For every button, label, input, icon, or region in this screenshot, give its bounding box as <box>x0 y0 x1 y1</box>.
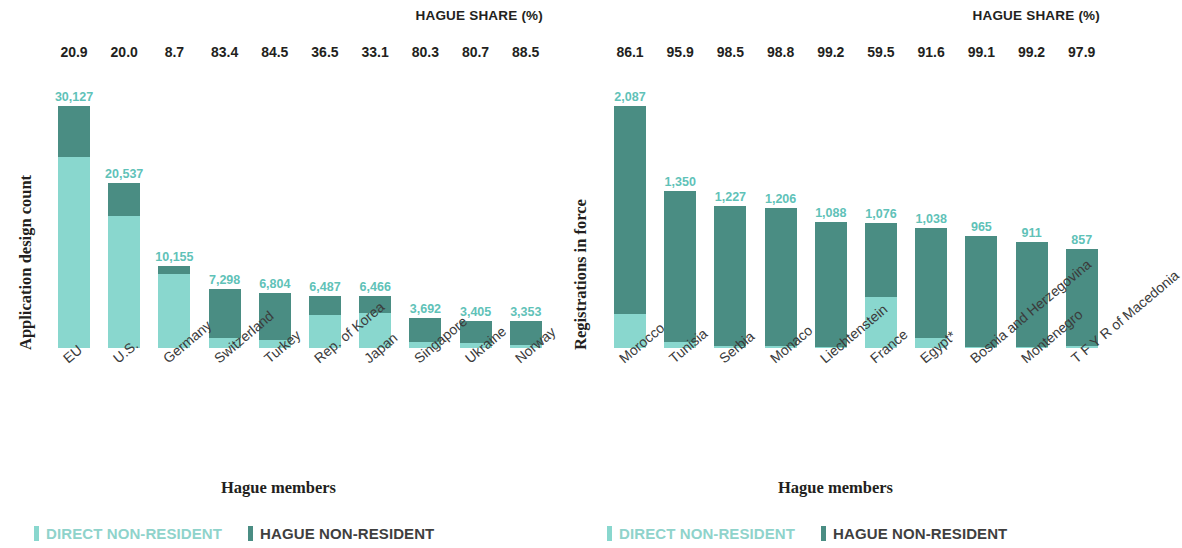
bar-group[interactable]: 1,038 <box>915 228 947 348</box>
bar-value-label: 911 <box>1022 226 1042 240</box>
legend-item-direct-non-resident[interactable]: DIRECT NON-RESIDENT <box>607 525 795 542</box>
legend-item-direct-non-resident[interactable]: DIRECT NON-RESIDENT <box>34 525 222 542</box>
chart-legend: DIRECT NON-RESIDENTHAGUE NON-RESIDENT <box>607 525 1007 542</box>
chart-panel-right: HAGUE SHARE (%)86.195.998.598.899.259.59… <box>557 0 1114 548</box>
stacked-bar <box>614 106 646 348</box>
stacked-bar <box>664 191 696 348</box>
bar-value-label: 1,038 <box>916 212 947 226</box>
stacked-bar <box>915 228 947 348</box>
bar-segment-hague-non-resident[interactable] <box>664 191 696 341</box>
bar-group[interactable]: 1,227 <box>714 206 746 348</box>
stacked-bar <box>815 222 847 348</box>
bar-value-label: 7,298 <box>209 273 240 287</box>
bar-segment-hague-non-resident[interactable] <box>158 266 190 273</box>
bar-segment-direct-non-resident[interactable] <box>108 216 140 348</box>
bar-segment-hague-non-resident[interactable] <box>209 289 241 338</box>
bar-value-label: 1,350 <box>665 175 696 189</box>
x-axis-title: Hague members <box>557 478 1114 498</box>
bar-value-label: 3,405 <box>460 305 491 319</box>
legend-label-direct-non-resident: DIRECT NON-RESIDENT <box>46 525 222 542</box>
bar-segment-hague-non-resident[interactable] <box>58 106 90 157</box>
bar-value-label: 20,537 <box>105 167 143 181</box>
bar-segment-hague-non-resident[interactable] <box>714 206 746 346</box>
bar-value-label: 3,353 <box>510 305 541 319</box>
bar-value-label: 857 <box>1071 233 1092 247</box>
bar-group[interactable]: 2,087 <box>614 106 646 348</box>
legend-item-hague-non-resident[interactable]: HAGUE NON-RESIDENT <box>248 525 434 542</box>
bar-value-label: 3,692 <box>410 302 441 316</box>
legend-swatch-hague-icon <box>821 526 826 541</box>
legend-item-hague-non-resident[interactable]: HAGUE NON-RESIDENT <box>821 525 1007 542</box>
chart-panel-left: HAGUE SHARE (%)20.920.08.783.484.536.533… <box>0 0 557 548</box>
bar-value-label: 30,127 <box>55 90 93 104</box>
plot-area: 30,12720,53710,1557,2986,8046,4876,4663,… <box>0 0 557 548</box>
legend-swatch-direct-icon <box>607 526 612 541</box>
bar-segment-hague-non-resident[interactable] <box>965 236 997 347</box>
plot-area: 2,0871,3501,2271,2061,0881,0761,03896591… <box>557 0 1114 548</box>
bar-segment-hague-non-resident[interactable] <box>815 222 847 347</box>
bar-group[interactable]: 30,127 <box>58 106 90 348</box>
bar-value-label: 2,087 <box>614 90 645 104</box>
bar-segment-hague-non-resident[interactable] <box>865 223 897 297</box>
x-axis-title: Hague members <box>0 478 557 498</box>
chart-legend: DIRECT NON-RESIDENTHAGUE NON-RESIDENT <box>34 525 434 542</box>
bar-value-label: 1,076 <box>865 207 896 221</box>
legend-label-hague-non-resident: HAGUE NON-RESIDENT <box>833 525 1007 542</box>
stacked-bar <box>714 206 746 348</box>
bar-value-label: 1,227 <box>715 190 746 204</box>
bar-segment-hague-non-resident[interactable] <box>915 228 947 338</box>
bar-segment-hague-non-resident[interactable] <box>765 208 797 346</box>
bar-value-label: 1,206 <box>765 192 796 206</box>
stacked-bar <box>58 106 90 348</box>
legend-label-direct-non-resident: DIRECT NON-RESIDENT <box>619 525 795 542</box>
bar-value-label: 6,487 <box>309 280 340 294</box>
bar-value-label: 6,804 <box>259 277 290 291</box>
bar-segment-direct-non-resident[interactable] <box>58 157 90 348</box>
bar-group[interactable]: 1,350 <box>664 191 696 348</box>
stacked-bar <box>765 208 797 348</box>
bar-value-label: 10,155 <box>155 250 193 264</box>
stacked-bar <box>108 183 140 348</box>
bar-segment-hague-non-resident[interactable] <box>108 183 140 216</box>
bar-group[interactable]: 1,206 <box>765 208 797 348</box>
bar-value-label: 6,466 <box>360 280 391 294</box>
bar-group[interactable]: 1,088 <box>815 222 847 348</box>
bar-segment-hague-non-resident[interactable] <box>614 106 646 314</box>
legend-label-hague-non-resident: HAGUE NON-RESIDENT <box>260 525 434 542</box>
bar-value-label: 965 <box>971 220 992 234</box>
legend-swatch-direct-icon <box>34 526 39 541</box>
bar-value-label: 1,088 <box>815 206 846 220</box>
legend-swatch-hague-icon <box>248 526 253 541</box>
bar-group[interactable]: 20,537 <box>108 183 140 348</box>
bar-segment-hague-non-resident[interactable] <box>309 296 341 315</box>
